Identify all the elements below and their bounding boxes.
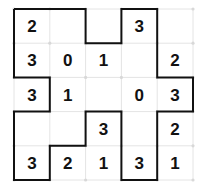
cell[interactable]: 3 [27, 51, 36, 70]
clue-number: 3 [135, 17, 144, 36]
cell[interactable]: 2 [63, 154, 72, 173]
cell[interactable]: 3 [27, 154, 36, 173]
clue-number: 2 [63, 154, 72, 173]
clue-number: 3 [27, 154, 36, 173]
clue-number: 3 [99, 120, 108, 139]
grid-dot [191, 7, 194, 10]
clue-number: 2 [170, 120, 179, 139]
clue-number: 1 [99, 154, 108, 173]
clue-number: 3 [135, 154, 144, 173]
cell[interactable]: 2 [27, 17, 36, 36]
slitherlink-board[interactable]: 23301231033232131 [0, 0, 203, 191]
clue-number: 0 [135, 86, 144, 105]
clue-number: 2 [170, 51, 179, 70]
cell[interactable]: 3 [27, 86, 36, 105]
clue-number: 1 [63, 86, 72, 105]
cell[interactable]: 3 [170, 86, 179, 105]
cell[interactable]: 1 [170, 154, 179, 173]
cell[interactable]: 1 [99, 154, 108, 173]
cell[interactable]: 0 [135, 86, 144, 105]
cell[interactable]: 3 [99, 120, 108, 139]
clue-number: 1 [99, 51, 108, 70]
cell[interactable]: 2 [170, 120, 179, 139]
clue-number: 3 [170, 86, 179, 105]
cell[interactable]: 0 [63, 51, 72, 70]
cell[interactable]: 1 [63, 86, 72, 105]
clue-number: 0 [63, 51, 72, 70]
cell[interactable]: 3 [135, 154, 144, 173]
grid-dot [191, 178, 194, 181]
cell[interactable]: 2 [170, 51, 179, 70]
cell[interactable]: 1 [99, 51, 108, 70]
clue-number: 3 [27, 51, 36, 70]
cell[interactable]: 3 [135, 17, 144, 36]
grid-dot [120, 76, 123, 79]
clue-number: 2 [27, 17, 36, 36]
clue-number: 1 [170, 154, 179, 173]
grid-dot [191, 42, 194, 45]
grid-dot [48, 42, 51, 45]
grid-dot [191, 144, 194, 147]
grid-dot [84, 178, 87, 181]
clue-number: 3 [27, 86, 36, 105]
grid-dot [84, 76, 87, 79]
